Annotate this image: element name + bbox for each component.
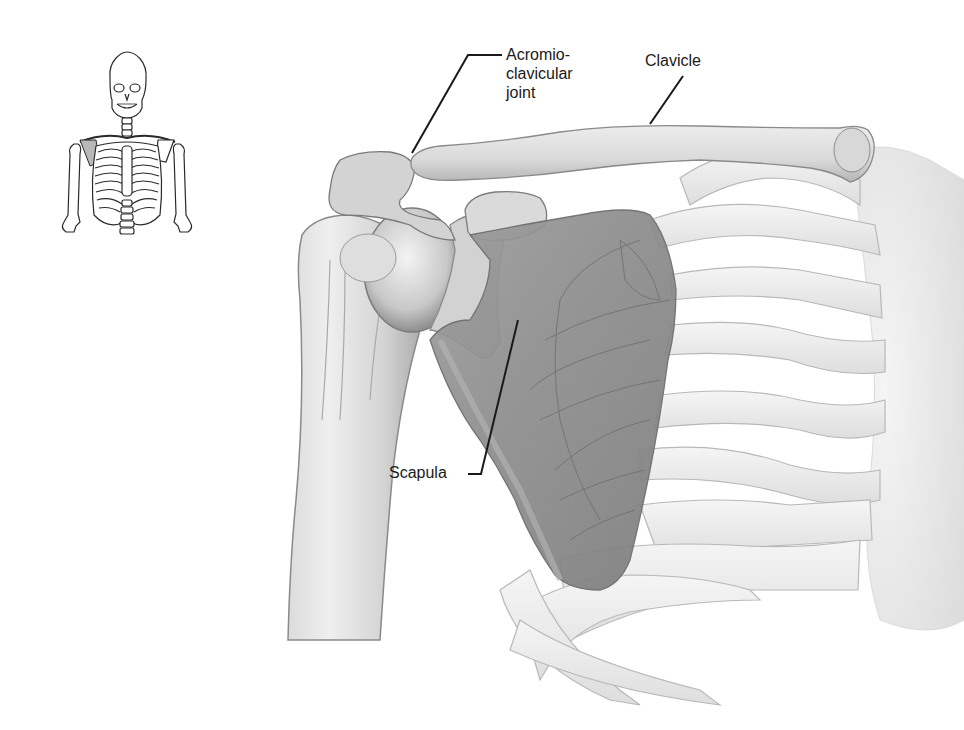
skeleton-inset-thumbnail [62,52,191,234]
leader-clavicle [650,76,683,124]
inset-sternum [122,146,132,196]
main-anatomy-drawing [288,126,964,705]
leader-acromioclavicular [412,55,502,153]
inset-left-arm [62,144,80,232]
label-scapula: Scapula [389,463,447,482]
label-clavicle: Clavicle [645,51,701,70]
shoulder-anatomy-illustration [0,0,964,730]
label-acromioclavicular-joint: Acromio- clavicular joint [506,45,573,102]
inset-right-arm [173,144,191,232]
inset-skull [110,52,146,118]
sternum [850,147,964,630]
